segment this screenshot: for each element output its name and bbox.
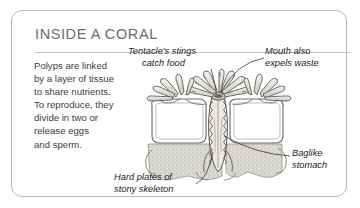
callout-stomach: Baglike stomach (292, 148, 327, 171)
callout-mouth-line1: Mouth also (265, 46, 319, 58)
callout-skeleton-line1: Hard plates of (114, 172, 173, 184)
corallite-cup-left (152, 99, 207, 143)
callout-mouth-line2: expels waste (265, 58, 319, 70)
callout-stomach-line1: Baglike (292, 148, 327, 160)
callout-skeleton-line2: stony skeleton (114, 184, 173, 196)
corallite-cup-right (230, 99, 283, 143)
callout-tentacle-line1: Tentacle's stings (128, 46, 196, 58)
callout-tentacle: Tentacle's stings catch food (128, 46, 196, 69)
callout-skeleton: Hard plates of stony skeleton (114, 172, 173, 195)
callout-stomach-line2: stomach (292, 160, 327, 172)
coral-polyp-illustration (0, 0, 360, 208)
callout-tentacle-line2: catch food (128, 58, 196, 70)
tentacle-crown-center (188, 69, 250, 97)
callout-mouth: Mouth also expels waste (265, 46, 319, 69)
